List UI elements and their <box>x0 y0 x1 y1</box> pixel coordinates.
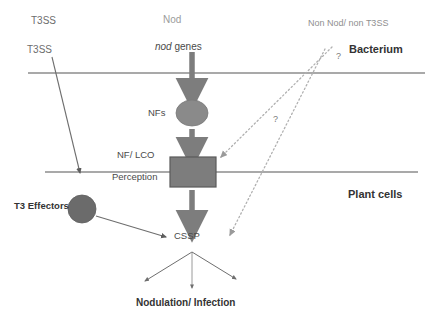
label-t3ss-top: T3SS <box>31 15 56 26</box>
label-t3ss-second: T3SS <box>27 44 52 55</box>
perception-box-shape <box>170 157 216 187</box>
label-non-nod-non-t3ss: Non Nod/ non T3SS <box>308 19 388 29</box>
label-nod: Nod <box>163 14 181 25</box>
label-t3-effectors: T3 Effectors <box>14 201 69 211</box>
label-nod-genes: nod genes <box>155 41 202 52</box>
arrow-cssp-fan-right <box>192 252 236 279</box>
arrow-t3ss-injection <box>52 57 80 173</box>
label-question-mark-upper: ? <box>336 52 341 62</box>
dotted-arrow-to-cssp <box>230 49 325 235</box>
label-question-mark-lower: ? <box>273 115 278 125</box>
nfs-ellipse-shape <box>176 100 208 126</box>
dotted-arrow-to-perception <box>221 47 332 157</box>
t3-effector-circle-shape <box>68 195 96 223</box>
label-cssp: CSSP <box>174 231 200 241</box>
label-nf-lco: NF/ LCO <box>117 150 154 160</box>
signaling-diagram: T3SS T3SS Nod nod genes Non Nod/ non T3S… <box>0 0 442 323</box>
label-nodulation-infection: Nodulation/ Infection <box>136 297 235 308</box>
label-perception: Perception <box>112 172 157 182</box>
arrow-cssp-fan-left <box>145 252 192 281</box>
label-nod-genes-italic: nod <box>155 41 172 52</box>
label-nod-genes-rest: genes <box>172 41 202 52</box>
label-bacterium: Bacterium <box>349 43 403 55</box>
label-nfs: NFs <box>148 108 165 118</box>
label-plant-cells: Plant cells <box>348 188 402 200</box>
arrow-effectors-to-cssp <box>96 216 166 237</box>
